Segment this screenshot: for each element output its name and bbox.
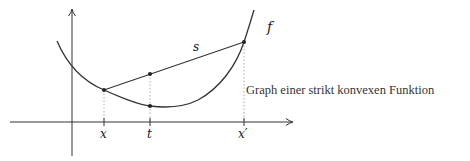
point-t-on-secant [148, 72, 152, 76]
secant-line [104, 42, 244, 90]
label-s: s [193, 40, 199, 54]
label-t: t [147, 127, 152, 141]
caption: Graph einer strikt konvexen Funktion [246, 83, 435, 97]
function-curve [57, 10, 254, 107]
point-t-on-curve [148, 104, 152, 108]
label-x: x [100, 127, 107, 141]
label-x-prime: x′ [238, 127, 248, 141]
convex-function-diagram: f s x t x′ Graph einer strikt konvexen F… [0, 0, 470, 161]
point-x-on-curve [102, 88, 106, 92]
label-f: f [266, 19, 275, 35]
point-x-prime-on-curve [242, 40, 246, 44]
